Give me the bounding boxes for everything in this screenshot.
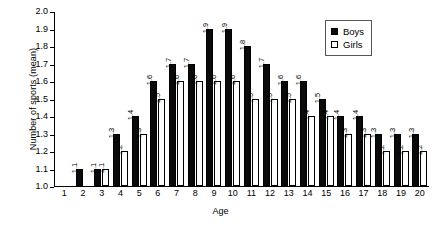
bar-girls: 1.6 — [196, 81, 203, 186]
y-axis-tick-mark — [50, 135, 54, 136]
bar-group: 1.31.2 — [410, 12, 429, 186]
legend-swatch-icon — [331, 28, 338, 35]
bar-value-label: 1.1 — [98, 162, 106, 172]
bar-girls: 1.6 — [214, 81, 221, 186]
x-axis-title: Age — [0, 206, 441, 216]
bar-girls: 1.2 — [402, 151, 409, 186]
bar-group-bars: 1.71.5 — [261, 12, 280, 186]
bar-value-label: 1.3 — [408, 127, 416, 137]
bar-value-label: 1.4 — [352, 110, 360, 120]
y-axis-tick-mark — [50, 30, 54, 31]
legend-item-girls[interactable]: Girls — [331, 38, 364, 51]
bar-value-label: 1.3 — [135, 127, 143, 137]
bar-boys: 1.1 — [76, 169, 83, 187]
bar-group-bars — [55, 12, 74, 186]
bar-group: 1.31.2 — [392, 12, 411, 186]
x-axis-tick-label: 11 — [242, 188, 261, 198]
x-axis-tick-label: 17 — [354, 188, 373, 198]
bar-value-label: 1.5 — [154, 92, 162, 102]
x-axis-tick-label: 18 — [373, 188, 392, 198]
y-axis-tick-label: 1.1 — [35, 164, 48, 174]
y-axis-tick-mark — [50, 152, 54, 153]
bar-group-bars: 1.31.2 — [392, 12, 411, 186]
x-axis-tick-label: 8 — [186, 188, 205, 198]
bar-group-bars: 1.41.3 — [130, 12, 149, 186]
bar-value-label: 1.3 — [341, 127, 349, 137]
bar-value-label: 1.5 — [285, 92, 293, 102]
bar-value-label: 1.6 — [277, 75, 285, 85]
bar-value-label: 1.4 — [303, 110, 311, 120]
bar-value-label: 1.9 — [202, 22, 210, 32]
x-axis-tick-label: 14 — [298, 188, 317, 198]
x-axis-ticks: 1234567891011121314151617181920 — [55, 188, 429, 198]
x-axis-tick-label: 10 — [223, 188, 242, 198]
x-axis-tick-label: 2 — [74, 188, 93, 198]
bar-group — [55, 12, 74, 186]
x-axis-tick-label: 9 — [205, 188, 224, 198]
x-axis-tick-label: 15 — [317, 188, 336, 198]
bar-value-label: 1.3 — [360, 127, 368, 137]
bar-group: 1.71.5 — [261, 12, 280, 186]
bar-value-label: 1.9 — [221, 22, 229, 32]
bar-value-label: 1.2 — [397, 145, 405, 155]
bar-group: 1.11.1 — [92, 12, 111, 186]
bar-boys: 1.3 — [412, 134, 419, 187]
x-axis-tick-label: 4 — [111, 188, 130, 198]
bar-value-label: 1.4 — [127, 110, 135, 120]
legend-item-boys[interactable]: Boys — [331, 25, 364, 38]
bar-girls: 1.5 — [252, 99, 259, 187]
bar-boys: 1.9 — [225, 29, 232, 187]
bar-chart-figure: Number of sports (mean) 1.01.11.21.31.41… — [0, 0, 441, 237]
bar-value-label: 1.6 — [191, 75, 199, 85]
y-axis-tick-label: 1.2 — [35, 146, 48, 156]
bar-girls: 1.6 — [233, 81, 240, 186]
x-axis-tick-label: 5 — [130, 188, 149, 198]
bar-boys: 1.3 — [394, 134, 401, 187]
bar-group: 1.91.6 — [205, 12, 224, 186]
bar-girls: 1.3 — [364, 134, 371, 187]
x-axis-tick-label: 20 — [410, 188, 429, 198]
bar-group: 1.31.2 — [111, 12, 130, 186]
bar-girls: 1.2 — [383, 151, 390, 186]
bar-value-label: 1.5 — [266, 92, 274, 102]
bar-value-label: 1.6 — [173, 75, 181, 85]
bar-boys: 1.3 — [113, 134, 120, 187]
bar-group-bars: 1.1 — [74, 12, 93, 186]
bar-group-bars: 1.61.5 — [279, 12, 298, 186]
y-axis-tick-mark — [50, 82, 54, 83]
bar-group-bars: 1.81.5 — [242, 12, 261, 186]
bar-groups: 1.11.11.11.31.21.41.31.61.51.71.61.71.61… — [55, 12, 429, 186]
bar-girls: 1.6 — [177, 81, 184, 186]
bar-group: 1.61.5 — [279, 12, 298, 186]
bar-value-label: 1.7 — [258, 57, 266, 67]
bar-girls: 1.5 — [271, 99, 278, 187]
y-axis-tick-mark — [50, 12, 54, 13]
bar-group: 1.71.6 — [186, 12, 205, 186]
y-axis-tick-label: 1.4 — [35, 111, 48, 121]
bar-boys: 1.7 — [263, 64, 270, 187]
x-axis-tick-label: 16 — [336, 188, 355, 198]
legend-item-label: Boys — [343, 26, 364, 37]
bar-value-label: 1.8 — [239, 40, 247, 50]
bar-girls: 1.2 — [420, 151, 427, 186]
x-axis-tick-label: 3 — [92, 188, 111, 198]
bar-boys: 1.3 — [375, 134, 382, 187]
y-axis-tick-label: 1.8 — [35, 41, 48, 51]
bar-group-bars: 1.91.6 — [223, 12, 242, 186]
y-axis-tick-label: 1.7 — [35, 59, 48, 69]
bar-group-bars: 1.31.2 — [111, 12, 130, 186]
bar-value-label: 1.3 — [108, 127, 116, 137]
bar-group-bars: 1.61.5 — [149, 12, 168, 186]
y-axis-tick-mark — [50, 100, 54, 101]
y-axis-tick-label: 1.3 — [35, 129, 48, 139]
bar-group: 1.91.6 — [223, 12, 242, 186]
bar-boys: 1.9 — [206, 29, 213, 187]
bar-girls: 1.3 — [345, 134, 352, 187]
bar-value-label: 1.6 — [229, 75, 237, 85]
bar-value-label: 1.5 — [247, 92, 255, 102]
bar-value-label: 1.3 — [389, 127, 397, 137]
bar-value-label: 1.5 — [314, 92, 322, 102]
bar-value-label: 1.6 — [295, 75, 303, 85]
y-axis-tick-label: 1.5 — [35, 94, 48, 104]
y-axis-tick-mark — [50, 170, 54, 171]
